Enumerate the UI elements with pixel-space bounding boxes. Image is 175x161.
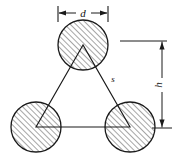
diameter-label: d bbox=[80, 7, 86, 19]
diameter-arrow-left-icon bbox=[59, 10, 67, 15]
height-arrow-bottom-icon bbox=[159, 120, 164, 128]
side-label: s bbox=[111, 74, 115, 84]
side-dimension: s bbox=[111, 74, 115, 84]
height-arrow-top-icon bbox=[159, 42, 164, 50]
height-label: h bbox=[152, 82, 164, 88]
technical-diagram: d s h bbox=[0, 0, 175, 161]
diameter-arrow-right-icon bbox=[100, 10, 108, 15]
diagram-canvas: d s h bbox=[0, 0, 175, 161]
circles-group bbox=[11, 20, 155, 152]
